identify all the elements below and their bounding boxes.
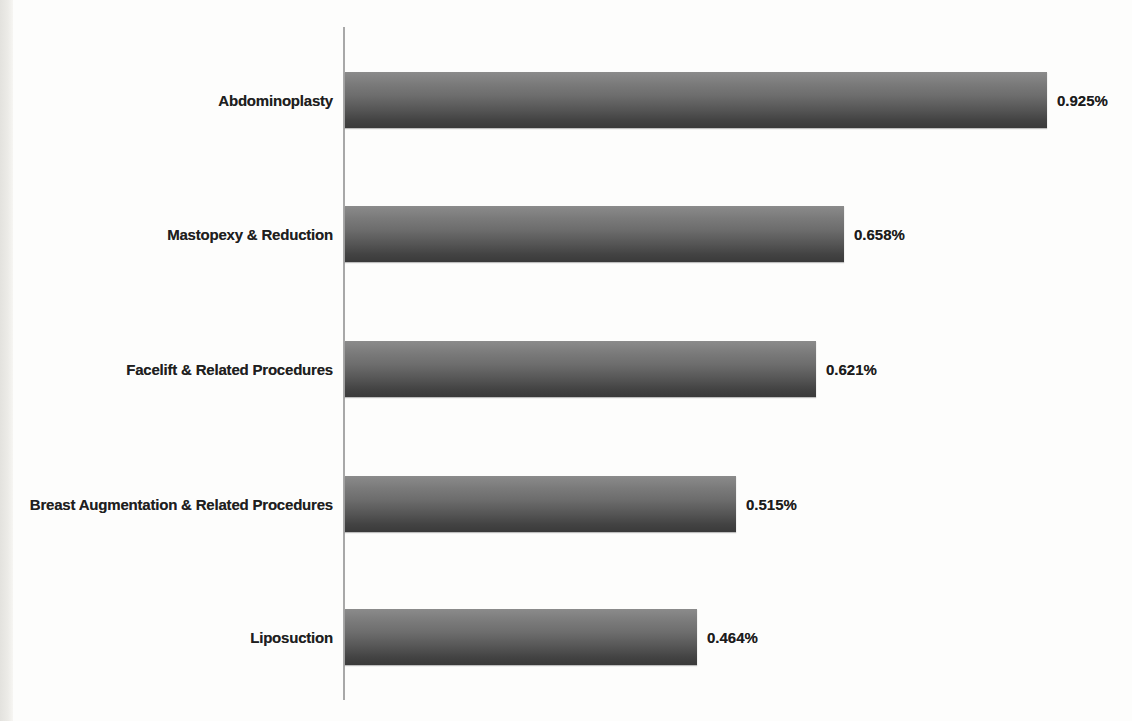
bar-row: Mastopexy & Reduction 0.658%: [0, 206, 1132, 262]
bar: [345, 609, 697, 665]
bar: [345, 341, 816, 397]
category-label: Abdominoplasty: [0, 72, 333, 128]
bar-chart: Abdominoplasty 0.925% Mastopexy & Reduct…: [0, 0, 1132, 721]
category-label: Mastopexy & Reduction: [0, 206, 333, 262]
bar-group: 0.621%: [345, 341, 877, 397]
bar-row: Abdominoplasty 0.925%: [0, 72, 1132, 128]
bar-group: 0.658%: [345, 206, 905, 262]
category-label: Liposuction: [0, 609, 333, 665]
bar: [345, 72, 1047, 128]
bar: [345, 476, 736, 532]
value-label: 0.464%: [707, 629, 758, 646]
bar-row: Liposuction 0.464%: [0, 609, 1132, 665]
value-label: 0.621%: [826, 361, 877, 378]
bar-group: 0.464%: [345, 609, 758, 665]
bar-row: Facelift & Related Procedures 0.621%: [0, 341, 1132, 397]
bar-group: 0.925%: [345, 72, 1108, 128]
bar: [345, 206, 844, 262]
category-label: Facelift & Related Procedures: [0, 341, 333, 397]
category-label: Breast Augmentation & Related Procedures: [0, 476, 333, 532]
value-label: 0.658%: [854, 226, 905, 243]
value-label: 0.515%: [746, 496, 797, 513]
bar-group: 0.515%: [345, 476, 797, 532]
bar-row: Breast Augmentation & Related Procedures…: [0, 476, 1132, 532]
value-label: 0.925%: [1057, 92, 1108, 109]
